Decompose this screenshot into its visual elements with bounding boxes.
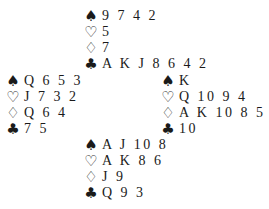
south-diamonds: J 9 — [102, 169, 125, 185]
west-hearts: J 7 3 2 — [24, 89, 78, 105]
club-icon: ♣ — [84, 185, 98, 201]
east-spades-row: ♠K — [161, 73, 269, 89]
north-clubs-row: ♣A K J 8 6 4 2 — [84, 56, 208, 72]
north-hearts-row: ♡5 — [84, 24, 208, 40]
spade-icon: ♠ — [161, 73, 175, 89]
west-hand: ♠Q 6 5 3 ♡J 7 3 2 ♢Q 6 4 ♣7 5 — [6, 73, 83, 137]
north-spades: 9 7 4 2 — [102, 8, 158, 24]
heart-icon: ♡ — [84, 24, 98, 40]
spade-icon: ♠ — [84, 137, 98, 153]
south-diamonds-row: ♢J 9 — [84, 169, 168, 185]
east-hearts-row: ♡Q 10 9 4 — [161, 89, 269, 105]
east-hand: ♠K ♡Q 10 9 4 ♢A K 10 8 5 3 2 ♣10 — [161, 73, 269, 137]
west-diamonds: Q 6 4 — [24, 105, 68, 121]
club-icon: ♣ — [6, 121, 20, 137]
west-clubs-row: ♣7 5 — [6, 121, 83, 137]
club-icon: ♣ — [84, 56, 98, 72]
north-spades-row: ♠9 7 4 2 — [84, 8, 208, 24]
north-diamonds: 7 — [102, 40, 112, 56]
spade-icon: ♠ — [84, 8, 98, 24]
south-spades-row: ♠A J 10 8 — [84, 137, 168, 153]
south-clubs-row: ♣Q 9 3 — [84, 185, 168, 201]
south-hearts-row: ♡A K 8 6 — [84, 153, 168, 169]
west-spades-row: ♠Q 6 5 3 — [6, 73, 83, 89]
diamond-icon: ♢ — [161, 105, 175, 121]
diamond-icon: ♢ — [84, 169, 98, 185]
east-spades: K — [179, 73, 192, 89]
diamond-icon: ♢ — [6, 105, 20, 121]
east-clubs: 10 — [179, 121, 198, 137]
north-diamonds-row: ♢7 — [84, 40, 208, 56]
south-clubs: Q 9 3 — [102, 185, 146, 201]
west-spades: Q 6 5 3 — [24, 73, 83, 89]
spade-icon: ♠ — [6, 73, 20, 89]
east-diamonds-row: ♢A K 10 8 5 3 2 — [161, 105, 269, 121]
heart-icon: ♡ — [6, 89, 20, 105]
heart-icon: ♡ — [161, 89, 175, 105]
south-hearts: A K 8 6 — [102, 153, 163, 169]
heart-icon: ♡ — [84, 153, 98, 169]
west-clubs: 7 5 — [24, 121, 49, 137]
west-hearts-row: ♡J 7 3 2 — [6, 89, 83, 105]
south-spades: A J 10 8 — [102, 137, 168, 153]
diamond-icon: ♢ — [84, 40, 98, 56]
club-icon: ♣ — [161, 121, 175, 137]
east-clubs-row: ♣10 — [161, 121, 269, 137]
north-hearts: 5 — [102, 24, 112, 40]
north-hand: ♠9 7 4 2 ♡5 ♢7 ♣A K J 8 6 4 2 — [84, 8, 208, 72]
south-hand: ♠A J 10 8 ♡A K 8 6 ♢J 9 ♣Q 9 3 — [84, 137, 168, 201]
east-hearts: Q 10 9 4 — [179, 89, 248, 105]
north-clubs: A K J 8 6 4 2 — [102, 56, 208, 72]
east-diamonds: A K 10 8 5 3 2 — [179, 105, 269, 121]
west-diamonds-row: ♢Q 6 4 — [6, 105, 83, 121]
